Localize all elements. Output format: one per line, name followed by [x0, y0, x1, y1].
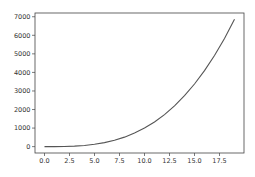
- y-tick-label: 6000: [14, 32, 31, 40]
- x-tick-label: 7.5: [114, 157, 124, 165]
- x-tick-label: 15.0: [187, 157, 201, 165]
- x-tick-label: 5.0: [89, 157, 99, 165]
- line-chart: 0.02.55.07.510.012.515.017.5 01000200030…: [0, 0, 255, 177]
- y-tick-label: 4000: [14, 69, 31, 77]
- x-tick-label: 2.5: [64, 157, 74, 165]
- series-line: [45, 19, 235, 146]
- x-tick-label: 12.5: [162, 157, 176, 165]
- y-tick-label: 1000: [14, 124, 31, 132]
- y-tick-label: 7000: [14, 13, 31, 21]
- y-tick-label: 2000: [14, 106, 31, 114]
- y-axis: 01000200030004000500060007000: [14, 13, 35, 151]
- plot-area: [45, 19, 235, 146]
- x-tick-label: 10.0: [137, 157, 151, 165]
- axes-frame: [35, 13, 244, 153]
- y-tick-label: 0: [26, 143, 30, 151]
- x-tick-label: 17.5: [212, 157, 226, 165]
- y-tick-label: 3000: [14, 87, 31, 95]
- x-axis: 0.02.55.07.510.012.515.017.5: [39, 153, 226, 165]
- x-tick-label: 0.0: [39, 157, 49, 165]
- y-tick-label: 5000: [14, 50, 31, 58]
